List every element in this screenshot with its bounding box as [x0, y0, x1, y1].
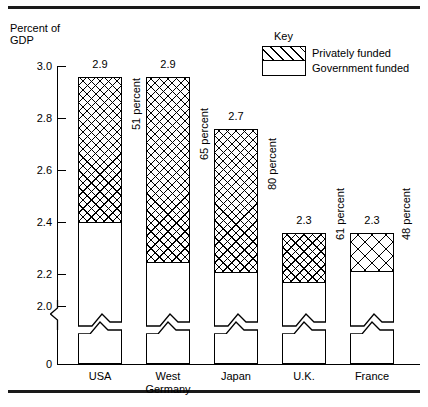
bar-france-percent-label: 48 percent: [400, 188, 412, 240]
y-tick-mark-2-8: [57, 118, 66, 119]
legend-swatch-privately-funded: [262, 46, 306, 61]
legend-swatch-government-funded: [262, 60, 306, 76]
y-tick-mark-2-2: [57, 274, 66, 275]
bar-uk-break-icon: [282, 300, 326, 334]
y-tick-mark-2-4: [57, 222, 66, 223]
bar-uk: [282, 233, 326, 364]
bar-west-germany-private-segment: [147, 78, 189, 263]
y-tick-label-3-0: 3.0: [18, 60, 52, 72]
top-rule: [8, 6, 420, 9]
bar-france-break-icon: [350, 300, 394, 334]
y-tick-label-2-6: 2.6: [18, 164, 52, 176]
bar-uk-value-label: 2.3: [274, 214, 334, 226]
y-axis-line-lower: [57, 326, 58, 365]
bar-usa-break-icon: [78, 300, 122, 334]
bar-japan-value-label: 2.7: [206, 110, 266, 122]
bottom-rule: [8, 390, 420, 393]
y-tick-mark-2-6: [57, 170, 66, 171]
legend-label-government-funded: Government funded: [312, 62, 409, 74]
bar-uk-private-segment: [283, 234, 325, 283]
y-tick-label-2-4: 2.4: [18, 216, 52, 228]
legend-title: Key: [274, 30, 293, 42]
bar-west-germany-break-icon: [146, 300, 190, 334]
bar-japan-percent-label: 80 percent: [266, 138, 278, 190]
y-axis-break-icon: [50, 300, 66, 330]
bar-france-private-segment: [351, 234, 393, 272]
bar-usa-value-label: 2.9: [70, 58, 130, 70]
legend-label-privately-funded: Privately funded: [312, 47, 391, 59]
y-tick-label-0: 0: [18, 358, 52, 370]
y-tick-label-2-8: 2.8: [18, 112, 52, 124]
bar-japan-break-icon: [214, 300, 258, 334]
y-tick-label-2-2: 2.2: [18, 268, 52, 280]
bar-france-value-label: 2.3: [342, 214, 402, 226]
bar-japan-private-segment: [215, 130, 257, 273]
bar-west-germany-value-label: 2.9: [138, 58, 198, 70]
chart-figure: Percent of GDP 3.0 2.8 2.6 2.4 2.2 2.0 0…: [0, 0, 428, 407]
bar-usa-private-segment: [79, 78, 121, 223]
x-category-label-france: France: [327, 370, 417, 383]
y-tick-mark-3-0: [57, 66, 66, 67]
y-axis-title: Percent of GDP: [10, 22, 60, 46]
x-axis-line: [57, 364, 420, 365]
y-axis-line-upper: [57, 66, 58, 306]
y-tick-mark-2-0: [57, 306, 66, 307]
y-tick-label-2-0: 2.0: [18, 300, 52, 312]
bar-usa-percent-label: 51 percent: [130, 78, 142, 130]
bar-france: [350, 233, 394, 364]
